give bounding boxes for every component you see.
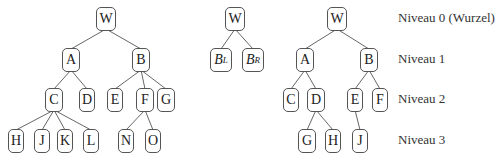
edge-F-N [126,110,145,130]
tree-node-k: K [57,129,73,153]
edge-W3-A3 [305,29,337,49]
level-2-label: Niveau 2 [398,91,445,107]
tree-node-e: E [347,88,363,112]
edge-B3-E3 [355,70,369,89]
edge-W2-BL [221,29,235,49]
tree-node-a: A [62,48,80,72]
tree-node-a: A [296,48,314,72]
edge-A3-C3 [291,70,305,89]
tree-node-e: E [107,88,123,112]
edge-W-B [106,29,141,49]
level-0-label: Niveau 0 (Wurzel) [398,10,495,26]
tree-node-c: C [283,88,299,112]
tree-node-d: D [79,88,95,112]
tree-node-g: G [157,88,175,112]
edge-A-C [54,70,71,89]
edge-A3-D3 [305,70,316,89]
tree-node-w: W [225,7,245,31]
tree-node-c: C [45,88,63,112]
tree-node-f: F [136,88,154,112]
edge-D3-H3 [316,110,333,130]
tree-node-l: L [83,129,99,153]
edge-F-O [145,110,153,130]
tree-node-w: W [327,7,347,31]
tree-node-g: G [298,129,316,153]
level-1-label: Niveau 1 [398,51,445,67]
tree-node-j: J [352,129,368,153]
tree-node-b: B [360,48,378,72]
tree-node-b-r: BR [242,48,264,72]
edge-B-E [115,70,141,89]
edge-W2-BR [235,29,253,49]
edge-D3-G3 [307,110,316,130]
tree-node-b-l: BL [210,48,232,72]
edge-W3-B3 [337,29,369,49]
tree-node-h: H [325,129,341,153]
edge-B3-F3 [369,70,380,89]
tree-node-f: F [372,88,388,112]
edge-E3-J3 [355,110,360,130]
level-3-label: Niveau 3 [398,132,445,148]
tree-node-b: B [132,48,150,72]
tree-node-o: O [145,129,161,153]
edge-A-D [71,70,87,89]
tree-node-j: J [34,129,50,153]
tree-node-w: W [96,7,116,31]
edge-W-A [71,29,106,49]
tree-node-h: H [8,129,24,153]
tree-node-n: N [118,129,134,153]
tree-node-d: D [307,88,325,112]
